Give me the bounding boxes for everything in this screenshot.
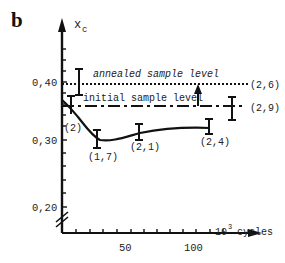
y-tick-020: 0,20 bbox=[32, 202, 57, 214]
point-label-1-7: (1,7) bbox=[88, 152, 118, 163]
y-tick-030: 0,30 bbox=[32, 135, 57, 147]
annotation-2-9: (2,9) bbox=[250, 103, 280, 114]
annealed-level-label: annealed sample level bbox=[93, 69, 219, 80]
y-axis-label-sub: c bbox=[82, 25, 87, 35]
point-label-2-4: (2,4) bbox=[200, 137, 230, 148]
x-tick-50: 50 bbox=[119, 242, 132, 254]
initial-level-label: initial sample level bbox=[83, 93, 203, 104]
x-axis-unit-word: cycles bbox=[237, 227, 273, 238]
point-label-2-1: (2,1) bbox=[130, 142, 160, 153]
x-tick-100: 100 bbox=[184, 242, 203, 254]
annotation-2-6: (2,6) bbox=[250, 80, 280, 91]
y-tick-040: 0,40 bbox=[32, 77, 57, 89]
x-axis-unit-exp: 3 bbox=[228, 223, 232, 231]
cycled-series bbox=[62, 100, 213, 148]
y-axis-label: x bbox=[74, 18, 81, 32]
x-axis-unit-base: 10 bbox=[215, 227, 227, 238]
point-label-2: (2) bbox=[64, 123, 82, 134]
chart: x c 0,40 0,30 0,20 50 100 10 3 cycles an… bbox=[0, 0, 285, 263]
